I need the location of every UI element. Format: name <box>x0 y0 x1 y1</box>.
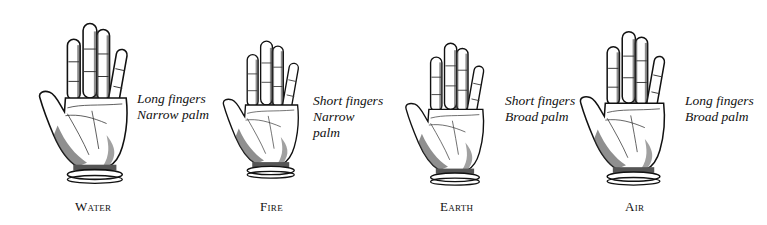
water-description: Long fingers Narrow palm <box>137 91 209 123</box>
air-hand-illustration <box>575 26 677 186</box>
fire-hand-illustration <box>222 30 306 185</box>
air-caption: Air <box>625 199 644 215</box>
air-description: Long fingers Broad palm <box>685 93 754 125</box>
fire-line-2: Narrow <box>313 109 383 125</box>
panel-fire: Short fingers Narrow palm Fire <box>200 0 385 225</box>
earth-line-1: Short fingers <box>505 93 575 109</box>
fire-description: Short fingers Narrow palm <box>313 93 383 141</box>
fire-line-3: palm <box>313 125 383 141</box>
air-line-1: Long fingers <box>685 93 754 109</box>
panel-air: Long fingers Broad palm Air <box>575 0 767 225</box>
fire-caption: Fire <box>260 199 283 215</box>
earth-line-2: Broad palm <box>505 109 575 125</box>
water-line-1: Long fingers <box>137 91 209 107</box>
earth-description: Short fingers Broad palm <box>505 93 575 125</box>
fire-line-1: Short fingers <box>313 93 383 109</box>
water-line-2: Narrow palm <box>137 107 209 123</box>
earth-hand-illustration <box>395 38 501 186</box>
air-line-2: Broad palm <box>685 109 754 125</box>
earth-caption: Earth <box>440 199 473 215</box>
water-hand-illustration <box>38 16 136 186</box>
panel-earth: Short fingers Broad palm Earth <box>385 0 575 225</box>
water-caption: Water <box>75 199 111 215</box>
panel-water: Long fingers Narrow palm Water <box>0 0 200 225</box>
